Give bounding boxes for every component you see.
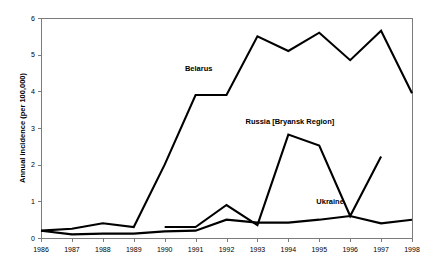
x-axis-tick-label: 1995	[311, 246, 327, 253]
y-axis-tick-label: 1	[31, 198, 35, 205]
series-line-russia-bryansk-region	[165, 135, 381, 227]
y-axis-tick-label: 6	[31, 15, 35, 22]
x-axis-tick-label: 1992	[219, 246, 235, 253]
x-axis-tick-label: 1993	[250, 246, 266, 253]
x-axis-tick-label: 1989	[126, 246, 142, 253]
series-label-belarus: Belarus	[185, 64, 213, 73]
y-axis-tick-label: 0	[31, 235, 35, 242]
x-axis-tick-label: 1990	[157, 246, 173, 253]
x-axis-tick-label: 1998	[404, 246, 420, 253]
x-axis-tick-label: 1988	[95, 246, 111, 253]
x-axis-tick-group: 1986198719881989199019911992199319941995…	[33, 238, 420, 253]
x-axis-tick-label: 1994	[281, 246, 297, 253]
x-axis-tick-label: 1987	[64, 246, 80, 253]
series-label-group: BelarusRussia [Bryansk Region]Ukraine	[185, 64, 344, 206]
y-axis-tick-label: 3	[31, 125, 35, 132]
y-axis-tick-label: 5	[31, 51, 35, 58]
x-axis-tick-label: 1991	[188, 246, 204, 253]
series-group	[41, 31, 412, 235]
series-label-ukraine: Ukraine	[316, 197, 344, 206]
x-axis-tick-label: 1986	[33, 246, 49, 253]
y-axis-tick-group: 0123456	[31, 15, 41, 242]
y-axis-title: Annual incidence (per 100,000)	[18, 72, 27, 183]
chart-container: 0123456 19861987198819891990199119921993…	[0, 0, 429, 266]
y-axis-tick-label: 4	[31, 88, 35, 95]
y-axis-tick-label: 2	[31, 161, 35, 168]
x-axis-tick-label: 1996	[342, 246, 358, 253]
x-axis-tick-label: 1997	[373, 246, 389, 253]
line-chart: 0123456 19861987198819891990199119921993…	[0, 0, 429, 266]
series-label-russia-bryansk-region: Russia [Bryansk Region]	[245, 117, 334, 126]
series-line-belarus	[41, 31, 412, 231]
